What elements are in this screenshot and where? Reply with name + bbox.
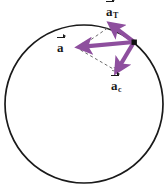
label-a-total-base: a xyxy=(57,41,64,54)
figure-canvas xyxy=(0,0,168,187)
label-a-centripetal-base: a xyxy=(111,79,118,92)
vector-a-total xyxy=(83,42,134,47)
label-a-centripetal-subscript: c xyxy=(118,85,122,94)
vector-a-centripetal xyxy=(119,42,135,68)
label-a-tangential-subscript: T xyxy=(113,11,118,20)
label-a-tangential-base: a xyxy=(106,5,113,18)
label-a-tangential: aT xyxy=(106,5,118,20)
dash-total-to-centripetal xyxy=(81,50,116,70)
particle-dot xyxy=(132,40,137,45)
label-a-centripetal: ac xyxy=(111,79,122,94)
label-a-total: a xyxy=(57,41,64,56)
vector-a-tangential xyxy=(114,27,135,43)
circular-motion-acceleration-figure: a aT ac xyxy=(0,0,168,187)
